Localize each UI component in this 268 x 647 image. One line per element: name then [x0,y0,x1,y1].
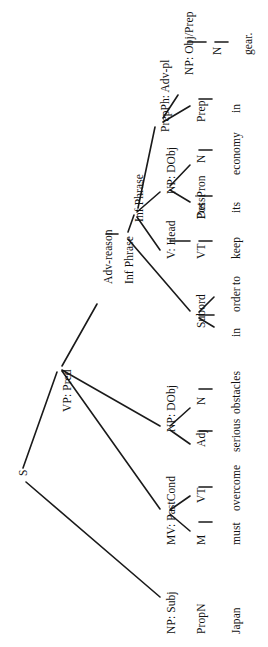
tree-node-m: M [196,535,208,545]
tree-node-serious: serious [231,419,243,452]
tree-edge [62,370,160,426]
tree-node-np_subj: NP: Subj [166,591,178,634]
tree-node-prepph: PrepPh: Adv-pl [160,59,172,132]
tree-node-its: its [231,202,243,213]
tree-node-obstacles: obstacles [231,371,243,414]
tree-node-mv_pastcond: MV: PastCond [166,476,178,545]
tree-node-prep: Prep [196,101,208,122]
tree-node-s: S [18,470,30,477]
tree-node-subord: Subord [196,294,208,328]
tree-edge [26,482,160,597]
tree-node-vt2: VT [196,243,208,259]
tree-node-to: to [231,276,243,285]
tree-node-n3: N [212,47,224,55]
tree-node-inf_phrase1: Inf Phrase [124,236,136,284]
tree-node-n2: N [196,155,208,163]
tree-node-overcome: overcome [231,465,243,511]
tree-node-np_dobj1: NP: DObj [166,385,178,432]
tree-node-propn: PropN [196,603,208,634]
tree-node-inf_phrase2: Inf Phrase [134,174,146,222]
tree-edge [23,372,57,468]
tree-node-vt1: VT [196,487,208,503]
tree-node-japan: Japan [231,607,243,634]
tree-edges-layer [0,0,268,647]
tree-node-vp_pred: VP: Pred [62,369,74,412]
tree-node-must: must [231,522,243,545]
tree-node-economy: economy [231,132,243,175]
tree-node-gear: gear. [243,32,255,55]
tree-node-np_dobj2: NP: DObj [166,147,178,194]
tree-node-in1: in [231,328,243,337]
tree-node-in2: in [231,104,243,113]
tree-node-adj: Adj [196,429,208,447]
tree-edge [62,304,97,366]
tree-node-posspron: PossPron [196,175,208,219]
tree-node-np_objprep: NP: Obj/Prep [184,12,196,76]
tree-node-keep: keep [231,237,243,259]
tree-node-order: order [231,287,243,312]
tree-node-adv_reason: Adv-reason [103,229,115,284]
tree-edge [62,371,160,509]
tree-node-n1: N [196,397,208,405]
tree-edge [170,430,190,444]
tree-node-v_head: V: Head [166,221,178,260]
syntax-tree-diagram: SNP: SubjPropNJapanVP: PredMV: PastCondM… [0,0,268,647]
